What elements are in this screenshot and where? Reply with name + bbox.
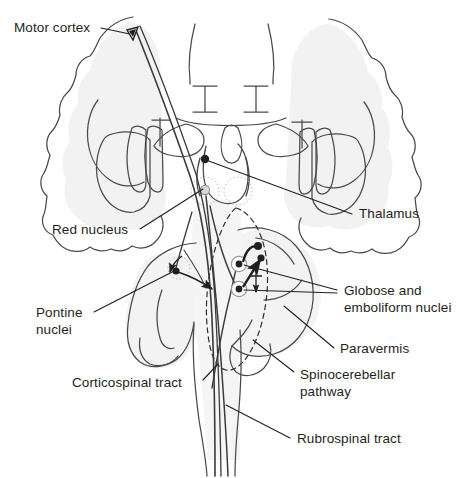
- midline-septum: [189, 24, 274, 84]
- cerebellar-cortex-node-1: [254, 242, 262, 250]
- label-spinocerebellar-pathway: Spinocerebellar pathway: [300, 366, 395, 400]
- label-globose-emboliform-nuclei: Globose and emboliform nuclei: [344, 282, 452, 316]
- third-ventricle-T: [193, 86, 268, 112]
- pons-shadow: [126, 253, 199, 369]
- corpus-callosum-arc: [176, 118, 286, 126]
- label-red-nucleus: Red nucleus: [52, 221, 128, 238]
- left-hemisphere-shadow: [63, 22, 166, 230]
- anatomy-figure: Motor cortex Thalamus Red nucleus Pontin…: [0, 0, 462, 478]
- label-thalamus: Thalamus: [359, 205, 419, 222]
- cerebellar-cortex-node-2: [257, 254, 264, 261]
- label-paravermis: Paravermis: [340, 340, 409, 357]
- emboliform-nucleus-node: [236, 286, 243, 293]
- thalamus-node: [201, 155, 209, 163]
- label-rubrospinal-tract: Rubrospinal tract: [297, 430, 401, 447]
- label-pontine-nuclei: Pontine nuclei: [36, 304, 83, 338]
- globose-nucleus-node: [236, 261, 243, 268]
- label-corticospinal-tract: Corticospinal tract: [72, 374, 182, 391]
- brain-diagram: [0, 0, 462, 478]
- label-motor-cortex: Motor cortex: [14, 19, 90, 36]
- right-hemisphere-shadow: [284, 24, 393, 229]
